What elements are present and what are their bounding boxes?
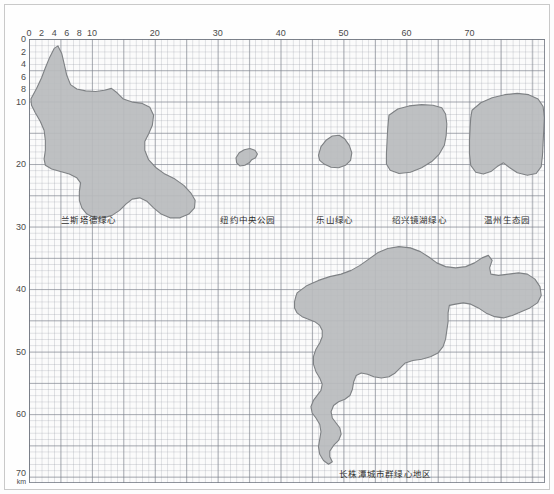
- x-tick-6: 6: [64, 29, 69, 38]
- x-tick-10: 10: [87, 29, 97, 38]
- x-tick-8: 8: [77, 29, 82, 38]
- shape-纽约中央公园: [236, 148, 257, 166]
- shape-兰斯塔德绿心: [31, 46, 195, 218]
- caption-纽约中央公园: 纽约中央公园: [220, 213, 275, 225]
- y-tick-40: 40: [16, 285, 26, 294]
- y-tick-4: 4: [21, 60, 26, 69]
- x-tick-20: 20: [150, 29, 160, 38]
- x-tick-0: 0: [26, 29, 31, 38]
- x-tick-4: 4: [52, 29, 57, 38]
- y-tick-30: 30: [16, 222, 26, 231]
- plot-area: 兰斯塔德绿心纽约中央公园乐山绿心绍兴镜湖绿心温州生态园长株潭城市群绿心地区: [29, 39, 545, 483]
- y-tick-10: 10: [16, 97, 26, 106]
- x-tick-50: 50: [339, 29, 349, 38]
- caption-绍兴镜湖绿心: 绍兴镜湖绿心: [392, 213, 447, 225]
- y-axis-ticks: 0246810203040506070km: [5, 39, 26, 483]
- caption-兰斯塔德绿心: 兰斯塔德绿心: [61, 213, 116, 225]
- y-tick-6: 6: [21, 72, 26, 81]
- axis-unit-label: km: [16, 478, 26, 485]
- y-tick-20: 20: [16, 160, 26, 169]
- caption-乐山绿心: 乐山绿心: [316, 213, 353, 225]
- green-core-shapes: [29, 39, 545, 483]
- x-tick-2: 2: [39, 29, 44, 38]
- shape-绍兴镜湖绿心: [386, 105, 446, 174]
- y-tick-8: 8: [21, 85, 26, 94]
- x-tick-30: 30: [213, 29, 223, 38]
- shape-乐山绿心: [318, 135, 351, 168]
- y-tick-2: 2: [21, 47, 26, 56]
- x-tick-60: 60: [402, 29, 412, 38]
- x-axis-ticks: 0246810203040506070: [29, 25, 545, 38]
- y-tick-60: 60: [16, 410, 26, 419]
- figure-page: 0246810203040506070 0246810203040506070k…: [0, 0, 554, 494]
- caption-长株潭城市群绿心地区: 长株潭城市群绿心地区: [339, 467, 431, 479]
- x-tick-40: 40: [276, 29, 286, 38]
- y-tick-50: 50: [16, 347, 26, 356]
- shape-温州生态园: [469, 93, 544, 175]
- caption-温州生态园: 温州生态园: [484, 213, 530, 225]
- shape-长株潭城市群绿心地区: [295, 247, 542, 465]
- y-tick-0: 0: [21, 35, 26, 44]
- y-tick-70: 70km: [16, 469, 26, 485]
- x-tick-70: 70: [464, 29, 474, 38]
- figure-frame: 0246810203040506070 0246810203040506070k…: [4, 4, 550, 490]
